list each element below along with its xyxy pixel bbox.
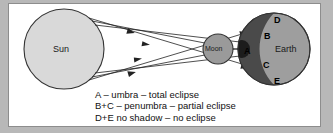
diagram-panel: Sun Moon Earth D B A C E A – umbra – tot…	[8, 3, 321, 127]
caption-block: A – umbra – total eclipse B+C – penumbra…	[95, 89, 236, 123]
zone-label-b: B	[264, 32, 271, 41]
caption-line-2: B+C – penumbra – partial eclipse	[95, 100, 236, 111]
earth-label: Earth	[275, 45, 297, 54]
moon-label: Moon	[205, 45, 223, 52]
sun-label: Sun	[53, 45, 69, 54]
caption-line-1: A – umbra – total eclipse	[95, 89, 236, 100]
zone-label-e: E	[274, 77, 280, 86]
zone-label-d: D	[274, 16, 281, 25]
eclipse-diagram-screenshot: Sun Moon Earth D B A C E A – umbra – tot…	[0, 0, 333, 133]
zone-label-c: C	[263, 61, 270, 70]
zone-label-a: A	[244, 47, 251, 56]
caption-line-3: D+E no shadow – no eclipse	[95, 112, 236, 123]
